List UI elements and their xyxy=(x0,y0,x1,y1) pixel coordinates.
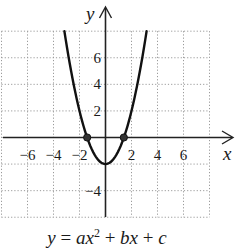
y-tick-label: −4 xyxy=(85,183,101,199)
y-tick-label: 2 xyxy=(94,103,102,119)
axes: x y xyxy=(3,3,233,217)
x-tick-label: −4 xyxy=(46,147,62,163)
x-axis-label: x xyxy=(222,143,232,164)
x-tick-label: −2 xyxy=(72,147,88,163)
parabola-graph: x y −6−4−2246642−4 xyxy=(0,0,245,248)
x-intercept-point xyxy=(84,134,91,141)
y-tick-label: 4 xyxy=(94,76,102,92)
tick-labels: −6−4−2246642−4 xyxy=(20,50,188,199)
x-tick-label: 2 xyxy=(128,147,136,163)
equation-caption: y = ax2 + bx + c xyxy=(0,226,214,248)
x-tick-label: 4 xyxy=(154,147,162,163)
y-axis-label: y xyxy=(84,3,95,24)
x-tick-label: −6 xyxy=(20,147,36,163)
x-intercept-point xyxy=(120,134,127,141)
x-tick-label: 6 xyxy=(180,147,188,163)
y-tick-label: 6 xyxy=(94,50,102,66)
